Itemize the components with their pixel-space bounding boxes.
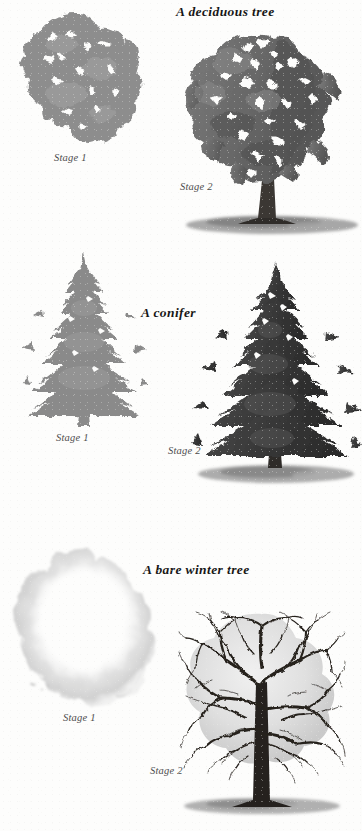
heading-conifer: A conifer [141,305,196,321]
stage-label-bare-2: Stage 2 [150,765,183,776]
artwork-deciduous-stage-1 [14,10,154,155]
stage-label-deciduous-2: Stage 2 [180,181,213,192]
stage-label-deciduous-1: Stage 1 [54,152,87,163]
heading-bare-winter-tree: A bare winter tree [143,562,250,578]
artwork-conifer-stage-2 [190,260,362,490]
section-deciduous-tree: Stage 1 A deciduous tree [0,0,362,250]
artwork-bare-tree-stage-2 [178,610,346,825]
artwork-conifer-stage-1 [22,250,148,440]
stage-label-bare-1: Stage 1 [63,712,96,723]
section-conifer: Stage 1 A conifer [0,250,362,500]
stage-label-conifer-1: Stage 1 [56,432,89,443]
section-bare-winter-tree: Stage 1 A bare winter tree [0,500,362,831]
artwork-deciduous-stage-2 [172,28,362,244]
heading-deciduous-tree: A deciduous tree [176,4,275,20]
stage-label-conifer-2: Stage 2 [168,445,201,456]
illustration-page: Stage 1 A deciduous tree [0,0,362,831]
